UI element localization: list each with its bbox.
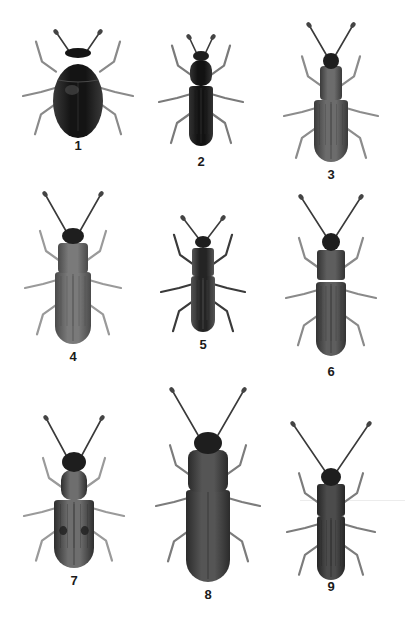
head xyxy=(194,432,222,454)
leg xyxy=(226,445,246,475)
specimen-number-label: 5 xyxy=(193,338,213,352)
leg xyxy=(302,56,322,86)
leg xyxy=(213,284,245,292)
head xyxy=(62,228,84,244)
leg xyxy=(100,42,120,72)
head xyxy=(65,48,91,58)
leg xyxy=(86,231,106,261)
leg xyxy=(89,280,121,288)
leg xyxy=(299,238,319,268)
specimen-number-label: 1 xyxy=(68,139,88,153)
leg xyxy=(344,290,376,298)
pronotum xyxy=(190,60,212,86)
specimen-number-label: 8 xyxy=(198,588,218,602)
leg xyxy=(92,508,124,516)
leg xyxy=(299,545,319,575)
leg xyxy=(173,301,193,331)
leg xyxy=(92,531,112,561)
pronotum xyxy=(317,250,345,280)
antenna xyxy=(207,218,223,239)
leg xyxy=(36,42,56,72)
head xyxy=(322,233,340,251)
leg xyxy=(40,231,60,261)
leg xyxy=(343,524,375,532)
specimen-number-label: 6 xyxy=(321,365,341,379)
head xyxy=(193,51,209,61)
leg xyxy=(343,545,363,575)
leg xyxy=(228,531,248,561)
leg xyxy=(25,280,57,288)
antenna xyxy=(82,418,102,455)
leg xyxy=(286,290,318,298)
head xyxy=(195,236,211,248)
head xyxy=(62,452,86,472)
specimen-number-label: 9 xyxy=(321,580,341,594)
leg xyxy=(298,315,318,345)
leg xyxy=(344,315,364,345)
antenna xyxy=(87,32,100,51)
leg xyxy=(174,235,194,265)
leg xyxy=(296,128,316,158)
beetle-plate: 1 2 3 4 5 6 7 8 9 xyxy=(0,0,405,627)
leg xyxy=(211,113,231,143)
leg xyxy=(343,238,363,268)
antenna xyxy=(293,424,325,471)
antenna xyxy=(46,418,66,455)
pronotum xyxy=(188,450,228,492)
antenna xyxy=(80,194,101,231)
leg xyxy=(284,108,316,116)
leg xyxy=(23,88,55,96)
antenna xyxy=(336,197,361,236)
leg xyxy=(211,94,243,102)
pronotum xyxy=(192,248,214,276)
antenna xyxy=(309,25,327,56)
leg xyxy=(156,498,188,506)
head xyxy=(323,53,339,69)
antenna xyxy=(183,218,199,239)
pronotum xyxy=(317,484,345,516)
antenna xyxy=(218,390,244,435)
antenna xyxy=(56,32,69,51)
specimen-number-label: 2 xyxy=(191,155,211,169)
antenna xyxy=(301,197,326,236)
leg xyxy=(171,113,191,143)
leg xyxy=(340,56,360,86)
leg xyxy=(161,284,193,292)
leg xyxy=(210,46,230,76)
leg xyxy=(24,508,56,516)
leg xyxy=(299,473,319,503)
leg xyxy=(170,445,190,475)
leg xyxy=(43,458,63,488)
leg xyxy=(287,524,319,532)
antenna xyxy=(335,25,353,56)
pronotum xyxy=(320,66,342,100)
specimen-number-label: 3 xyxy=(321,168,341,182)
leg xyxy=(343,473,363,503)
antenna xyxy=(45,194,66,231)
leg xyxy=(35,104,55,134)
antenna xyxy=(172,390,198,435)
specimen-number-label: 4 xyxy=(63,350,83,364)
antenna xyxy=(337,424,369,471)
leg xyxy=(228,498,260,506)
leg xyxy=(85,458,105,488)
leg xyxy=(101,104,121,134)
leg xyxy=(346,128,366,158)
head xyxy=(321,468,341,486)
leg xyxy=(213,301,233,331)
pronotum xyxy=(61,470,87,500)
leg xyxy=(101,88,133,96)
leg xyxy=(212,235,232,265)
leg xyxy=(168,531,188,561)
leg xyxy=(89,304,109,334)
pronotum xyxy=(58,243,88,273)
leg xyxy=(172,46,192,76)
leg xyxy=(36,531,56,561)
specimen-number-label: 7 xyxy=(64,574,84,588)
beetle-illustration xyxy=(0,0,1,1)
leg xyxy=(37,304,57,334)
leg xyxy=(346,108,378,116)
leg xyxy=(159,94,191,102)
